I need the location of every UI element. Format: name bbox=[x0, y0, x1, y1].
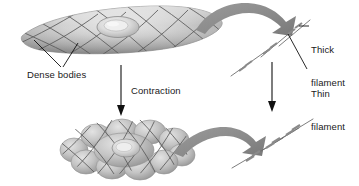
thin-filament-label-line2: filament bbox=[311, 121, 345, 132]
filament-sliding-arrow bbox=[268, 62, 276, 112]
contraction-label: Contraction bbox=[131, 85, 181, 96]
contracted-cell bbox=[58, 118, 195, 180]
relaxed-cell-nucleus bbox=[97, 17, 139, 38]
thin-filament-label-line1: Thin bbox=[311, 88, 345, 99]
contracted-filament-bundle bbox=[232, 119, 313, 168]
relaxed-filament-bundle bbox=[231, 20, 310, 76]
thick-filaments-relaxed bbox=[239, 23, 302, 71]
thin-filament-label: Thin filament bbox=[311, 66, 345, 154]
dense-bodies-label: Dense bodies bbox=[27, 69, 86, 80]
contracted-cell-nucleus bbox=[112, 139, 140, 157]
contraction-arrow bbox=[117, 65, 125, 116]
thick-filament-label-line1: Thick bbox=[311, 44, 345, 55]
smooth-muscle-contraction-figure: Dense bodies Contraction Thick filament … bbox=[0, 0, 359, 186]
